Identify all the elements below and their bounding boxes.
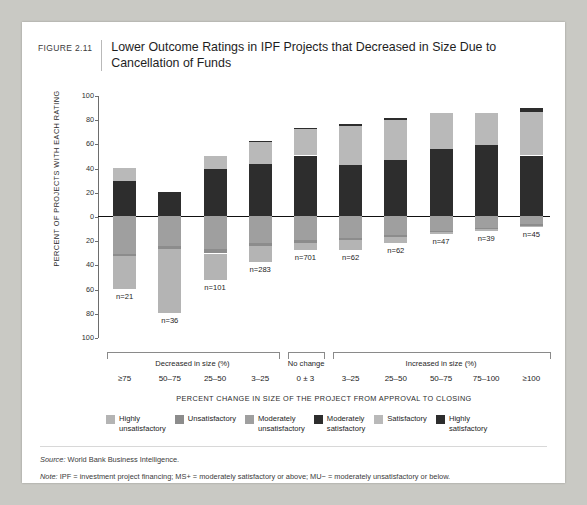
note-label: Note:: [40, 472, 58, 481]
y-axis-title: PERCENT OF PROJECTS WITH EACH RATING: [52, 79, 61, 279]
y-tick-label: 40: [74, 260, 94, 269]
group-bracket: [107, 352, 280, 359]
bar-segment: [384, 118, 407, 120]
bar-column[interactable]: n=47: [430, 96, 453, 338]
bar-count-label: n=283: [228, 265, 292, 274]
legend-item[interactable]: Unsatisfactory: [175, 414, 236, 424]
legend-swatch: [314, 415, 323, 424]
bar-segment: [294, 128, 317, 129]
bar-segment: [249, 246, 272, 262]
y-tick-label: 20: [74, 188, 94, 197]
legend-swatch: [175, 415, 184, 424]
bar-segment: [430, 113, 453, 149]
legend-swatch: [245, 415, 254, 424]
x-tick-label: ≥100: [499, 374, 563, 383]
legend-swatch: [436, 415, 445, 424]
bar-segment: [113, 181, 136, 216]
bar-segment: [249, 142, 272, 164]
legend-item[interactable]: Moderatelyunsatisfactory: [245, 414, 305, 433]
group-bracket: [333, 352, 551, 359]
legend-label: Highlysatisfactory: [449, 414, 487, 433]
bar-series-container: n=21n=36n=101n=283n=701n=62n=62n=47n=39n…: [98, 96, 550, 338]
legend-item[interactable]: Highlysatisfactory: [436, 414, 487, 433]
bar-segment: [384, 120, 407, 160]
bar-segment: [520, 112, 543, 156]
bar-segment: [294, 156, 317, 217]
legend-swatch: [374, 415, 383, 424]
x-axis-title: PERCENT CHANGE IN SIZE OF THE PROJECT FR…: [98, 394, 550, 403]
bar-segment: [430, 149, 453, 216]
y-tick-label: 60: [74, 285, 94, 294]
bar-segment: [384, 160, 407, 216]
bar-segment: [520, 156, 543, 217]
group-bracket-label: No change: [288, 359, 323, 368]
bar-column[interactable]: n=36: [158, 96, 181, 338]
legend-label: Moderatelyunsatisfactory: [258, 414, 305, 433]
legend-item[interactable]: Satisfactory: [374, 414, 427, 424]
legend-label: Unsatisfactory: [188, 414, 236, 424]
y-tick-label: 80: [74, 115, 94, 124]
y-tick-label: 100: [74, 91, 94, 100]
y-tick-label: 0: [74, 212, 94, 221]
bar-column[interactable]: n=101: [204, 96, 227, 338]
bar-segment: [204, 216, 227, 249]
bar-column[interactable]: n=39: [475, 96, 498, 338]
bar-segment: [294, 129, 317, 156]
bar-segment: [384, 237, 407, 243]
figure-notes: Source: World Bank Business Intelligence…: [40, 454, 547, 488]
bar-segment: [158, 216, 181, 246]
legend-swatch: [106, 415, 115, 424]
bar-segment: [520, 226, 543, 227]
bar-column[interactable]: n=701: [294, 96, 317, 338]
source-label: Source:: [40, 455, 65, 464]
bar-segment: [475, 216, 498, 228]
bar-segment: [204, 254, 227, 281]
bar-column[interactable]: n=62: [339, 96, 362, 338]
bar-column[interactable]: n=21: [113, 96, 136, 338]
bar-segment: [339, 216, 362, 238]
notes-divider: [40, 446, 547, 447]
bar-segment: [475, 113, 498, 144]
x-axis-groups: Decreased in size (%)No changeIncreased …: [98, 352, 550, 396]
bar-segment: [520, 108, 543, 112]
y-tick-label: 40: [74, 164, 94, 173]
bar-count-label: n=45: [499, 230, 563, 239]
definition-note: Note: IPF = investment project financing…: [40, 471, 547, 482]
group-bracket-label: Decreased in size (%): [107, 359, 278, 368]
bar-segment: [520, 216, 543, 224]
bar-segment: [339, 126, 362, 165]
bar-segment: [204, 156, 227, 169]
bar-segment: [339, 240, 362, 250]
bar-count-label: n=101: [183, 283, 247, 292]
legend-item[interactable]: Highlyunsatisfactory: [106, 414, 166, 433]
bar-segment: [339, 124, 362, 126]
bar-column[interactable]: n=45: [520, 96, 543, 338]
bar-segment: [294, 216, 317, 240]
legend-item[interactable]: Moderatelysatisfactory: [314, 414, 365, 433]
bar-segment: [113, 216, 136, 254]
source-note: Source: World Bank Business Intelligence…: [40, 454, 547, 465]
bar-segment: [249, 141, 272, 142]
y-tick-label: 80: [74, 309, 94, 318]
bar-count-label: n=36: [138, 316, 202, 325]
bar-segment: [249, 216, 272, 243]
source-text: World Bank Business Intelligence.: [65, 455, 179, 464]
bar-segment: [113, 256, 136, 289]
bar-segment: [204, 169, 227, 216]
legend-label: Moderatelysatisfactory: [327, 414, 365, 433]
bar-segment: [339, 165, 362, 216]
bar-segment: [249, 164, 272, 216]
legend-label: Satisfactory: [387, 414, 427, 424]
y-tick-label: 60: [74, 139, 94, 148]
figure-card: FIGURE 2.11 Lower Outcome Ratings in IPF…: [22, 22, 565, 483]
bar-segment: [430, 232, 453, 234]
bar-segment: [475, 145, 498, 216]
bar-segment: [294, 243, 317, 250]
bar-segment: [158, 249, 181, 313]
bar-column[interactable]: n=283: [249, 96, 272, 338]
bar-count-label: n=21: [93, 292, 157, 301]
y-tick-mark: [95, 338, 98, 339]
chart-axes: 10080604020020406080100 n=21n=36n=101n=2…: [98, 96, 550, 338]
bar-column[interactable]: n=62: [384, 96, 407, 338]
legend-label: Highlyunsatisfactory: [119, 414, 166, 433]
